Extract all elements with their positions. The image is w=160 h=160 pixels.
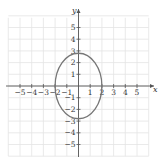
y-tick-label: −1 — [64, 93, 75, 102]
y-tick-label: 2 — [71, 58, 76, 67]
x-tick-label: −5 — [14, 88, 25, 97]
y-tick-label: −5 — [64, 140, 75, 149]
y-tick-label: 4 — [71, 35, 76, 44]
y-tick-label: 1 — [71, 70, 76, 79]
y-tick-label: −2 — [64, 105, 75, 114]
x-tick-label: 5 — [135, 88, 140, 97]
y-axis-label: y — [71, 6, 77, 15]
x-tick-label: 1 — [88, 88, 93, 97]
y-tick-label: 5 — [71, 23, 76, 32]
ellipse-graph: −5−4−3−2−112345−5−4−3−2−112345 x y — [0, 0, 160, 160]
axes — [6, 9, 154, 157]
y-tick-label: −4 — [64, 128, 75, 137]
x-tick-label: −3 — [38, 88, 49, 97]
coordinate-plane: −5−4−3−2−112345−5−4−3−2−112345 x y — [0, 0, 160, 160]
x-tick-label: 4 — [123, 88, 128, 97]
x-tick-label: −4 — [26, 88, 37, 97]
y-axis-arrow-icon — [77, 9, 81, 13]
x-axis-label: x — [153, 85, 158, 94]
x-tick-label: 3 — [111, 88, 116, 97]
